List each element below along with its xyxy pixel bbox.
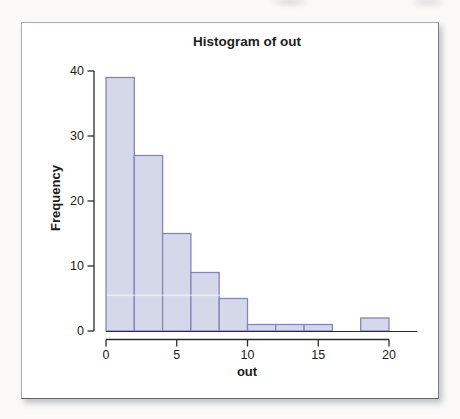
- y-tick-label: 0: [77, 324, 84, 338]
- histogram-bar: [248, 325, 276, 332]
- y-axis-label: Frequency: [48, 164, 63, 231]
- histogram-bar: [106, 78, 134, 332]
- histogram-bar: [191, 273, 219, 332]
- x-tick-label: 5: [173, 348, 180, 362]
- chart-title: Histogram of out: [193, 34, 301, 49]
- histogram-bar: [134, 156, 162, 332]
- bars-layer: [106, 78, 389, 332]
- x-axis-label: out: [237, 364, 258, 379]
- y-tick-label: 40: [70, 64, 84, 78]
- x-tick-label: 20: [382, 348, 396, 362]
- scan-line-artifact: [107, 295, 247, 297]
- y-tick-label: 30: [70, 129, 84, 143]
- figure-page: 01020304005101520 Histogram of out out F…: [0, 0, 460, 419]
- histogram-bar: [304, 325, 332, 332]
- y-tick-label: 20: [70, 194, 84, 208]
- histogram-bar: [276, 325, 304, 332]
- x-tick-label: 0: [103, 348, 110, 362]
- x-tick-label: 15: [311, 348, 325, 362]
- histogram-bar: [163, 234, 191, 332]
- histogram-bar: [219, 299, 247, 332]
- histogram-chart: 01020304005101520 Histogram of out out F…: [0, 0, 460, 419]
- x-tick-label: 10: [241, 348, 255, 362]
- histogram-bar: [361, 318, 389, 331]
- y-tick-label: 10: [70, 259, 84, 273]
